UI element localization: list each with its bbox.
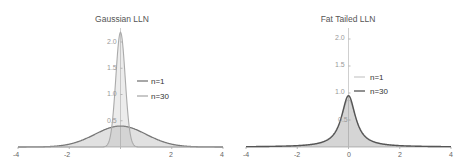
x-tick: 0 [347, 151, 351, 158]
legend-n30: n=30 [370, 87, 388, 96]
fat-tailed-plot-area [232, 0, 465, 167]
fat-tailed-lln-chart: Fat Tailed LLN 2.0 1.5 1.0 0.5 -4 -2 0 2… [232, 0, 465, 167]
x-tick: 4 [449, 151, 453, 158]
gaussian-lln-chart: Gaussian LLN 2.0 1.5 1.0 0.5 -4 -2 2 4 n… [0, 0, 232, 167]
series-fill-n=30 [18, 32, 223, 147]
y-tick: 0.5 [338, 116, 348, 123]
x-tick: 2 [169, 151, 173, 158]
y-tick: 1.0 [335, 88, 345, 95]
x-tick: -2 [64, 151, 70, 158]
x-tick: 4 [220, 151, 224, 158]
y-tick: 1.0 [107, 90, 117, 97]
legend-n1: n=1 [151, 77, 165, 86]
series-fill-n=30 [246, 96, 451, 147]
y-tick: 0.5 [107, 117, 117, 124]
y-tick: 2.0 [335, 34, 345, 41]
x-tick: 2 [398, 151, 402, 158]
legend-n30: n=30 [151, 92, 169, 101]
x-tick: -4 [13, 151, 19, 158]
y-tick: 1.5 [107, 64, 117, 71]
y-tick: 1.5 [335, 61, 345, 68]
y-tick: 2.0 [107, 38, 117, 45]
x-tick: -4 [243, 151, 249, 158]
x-tick: -2 [294, 151, 300, 158]
gaussian-plot-area [0, 0, 232, 167]
chart-title: Fat Tailed LLN [298, 14, 398, 24]
legend-n1: n=1 [370, 73, 384, 82]
chart-title: Gaussian LLN [72, 14, 172, 24]
